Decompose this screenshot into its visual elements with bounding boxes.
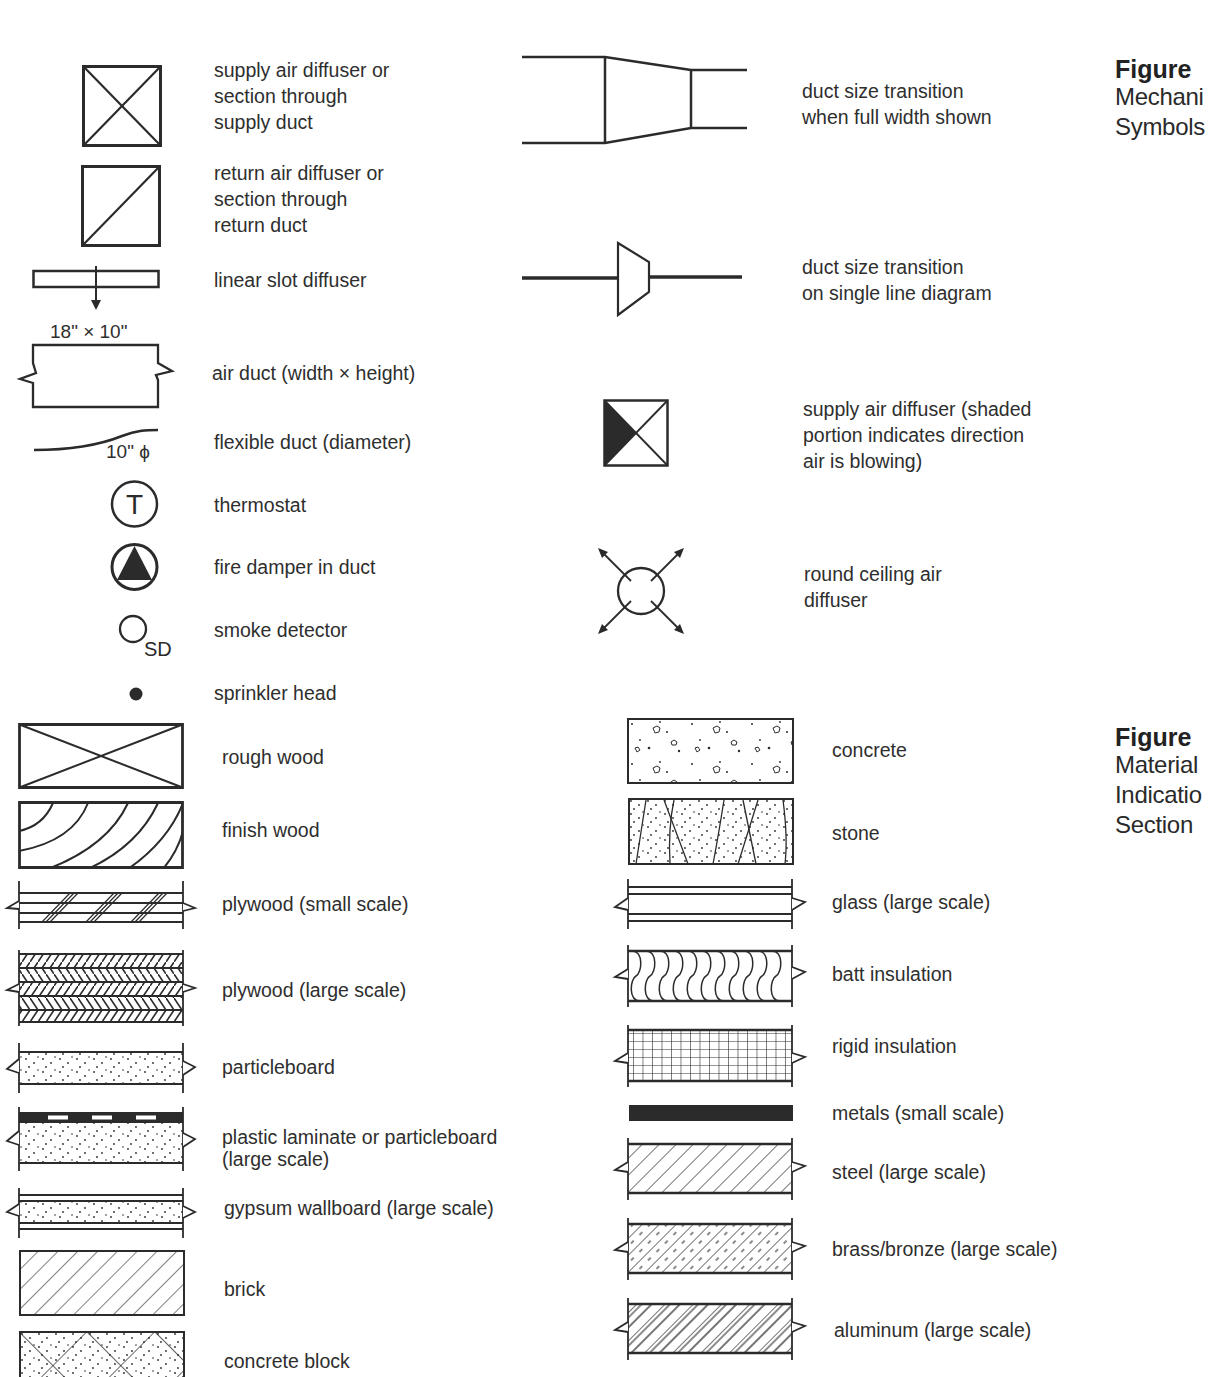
material-label-particleboard: particleboard [222,1054,335,1080]
material-label-aluminum: aluminum (large scale) [834,1317,1031,1343]
metals-small-scale-icon [628,1104,794,1122]
material-label-rigid-insulation: rigid insulation [832,1033,957,1059]
figure-title-materials: Material Indicatio Section [1115,750,1202,840]
material-label-brick: brick [224,1276,265,1302]
brick-icon [19,1250,185,1316]
fire-damper-icon [110,542,160,592]
air-duct-icon [18,343,174,409]
symbol-label-duct-transition-single: duct size transition on single line diag… [802,254,992,306]
smoke-detector-icon: SD [118,614,180,660]
rough-wood-icon [18,723,184,789]
material-label-plywood-small: plywood (small scale) [222,891,408,917]
material-label-plastic-laminate: plastic laminate or particleboard (large… [222,1126,497,1170]
material-label-stone: stone [832,820,880,846]
symbol-label-thermostat: thermostat [214,492,306,518]
material-label-batt-insulation: batt insulation [832,961,952,987]
material-label-concrete: concrete [832,737,907,763]
air-duct-dimension: 18" × 10" [50,319,127,345]
concrete-block-icon [19,1331,185,1377]
material-label-gypsum-wallboard: gypsum wallboard (large scale) [224,1195,494,1221]
plywood-large-scale-icon [6,950,196,1026]
finish-wood-icon [18,801,184,869]
batt-insulation-icon [614,945,796,1007]
sprinkler-head-icon [129,687,143,701]
material-label-rough-wood: rough wood [222,744,324,770]
material-label-finish-wood: finish wood [222,817,320,843]
aluminum-icon [614,1298,796,1360]
duct-transition-full-width-icon [521,55,751,147]
stone-icon [628,798,794,865]
thermostat-icon: T [110,480,160,528]
brass-bronze-icon [614,1218,796,1280]
plywood-small-scale-icon [6,881,196,929]
svg-text:SD: SD [144,638,172,660]
symbol-label-sprinkler-head: sprinkler head [214,680,336,706]
steel-icon [614,1138,796,1200]
symbol-label-smoke-detector: smoke detector [214,617,347,643]
figure-number-mechanical: Figure [1115,54,1191,84]
symbol-label-return-air-diffuser: return air diffuser or section through r… [214,160,384,238]
material-label-brass-bronze: brass/bronze (large scale) [832,1236,1057,1262]
svg-text:T: T [126,489,143,520]
rigid-insulation-icon [614,1025,796,1087]
symbol-label-duct-transition-full: duct size transition when full width sho… [802,78,992,130]
symbol-label-round-ceiling-diffuser: round ceiling air diffuser [804,561,942,613]
return-air-diffuser-icon [81,165,161,247]
figure-title-mechanical: Mechani Symbols [1115,82,1205,142]
plastic-laminate-icon [6,1107,196,1171]
flexible-duct-diameter: 10" ϕ [106,439,150,465]
figure-number-materials: Figure [1115,722,1191,752]
symbol-label-linear-slot-diffuser: linear slot diffuser [214,267,366,293]
symbol-label-supply-air-diffuser: supply air diffuser or section through s… [214,57,389,135]
material-label-glass: glass (large scale) [832,889,990,915]
symbol-label-air-duct: air duct (width × height) [212,360,415,386]
duct-transition-single-line-icon [522,242,744,318]
glass-icon [614,879,796,929]
gypsum-wallboard-icon [6,1188,196,1238]
supply-air-diffuser-icon [82,65,162,147]
symbol-label-directional-diffuser: supply air diffuser (shaded portion indi… [803,396,1031,474]
material-label-plywood-large: plywood (large scale) [222,977,406,1003]
concrete-icon [627,718,794,784]
symbol-label-fire-damper: fire damper in duct [214,554,376,580]
linear-slot-diffuser-icon [32,266,160,312]
directional-supply-diffuser-icon [603,399,669,467]
particleboard-icon [6,1043,196,1093]
round-ceiling-diffuser-icon [596,546,686,636]
material-label-concrete-block: concrete block [224,1348,350,1374]
material-label-steel: steel (large scale) [832,1159,986,1185]
material-label-metals-small: metals (small scale) [832,1100,1004,1126]
symbol-label-flexible-duct: flexible duct (diameter) [214,429,411,455]
